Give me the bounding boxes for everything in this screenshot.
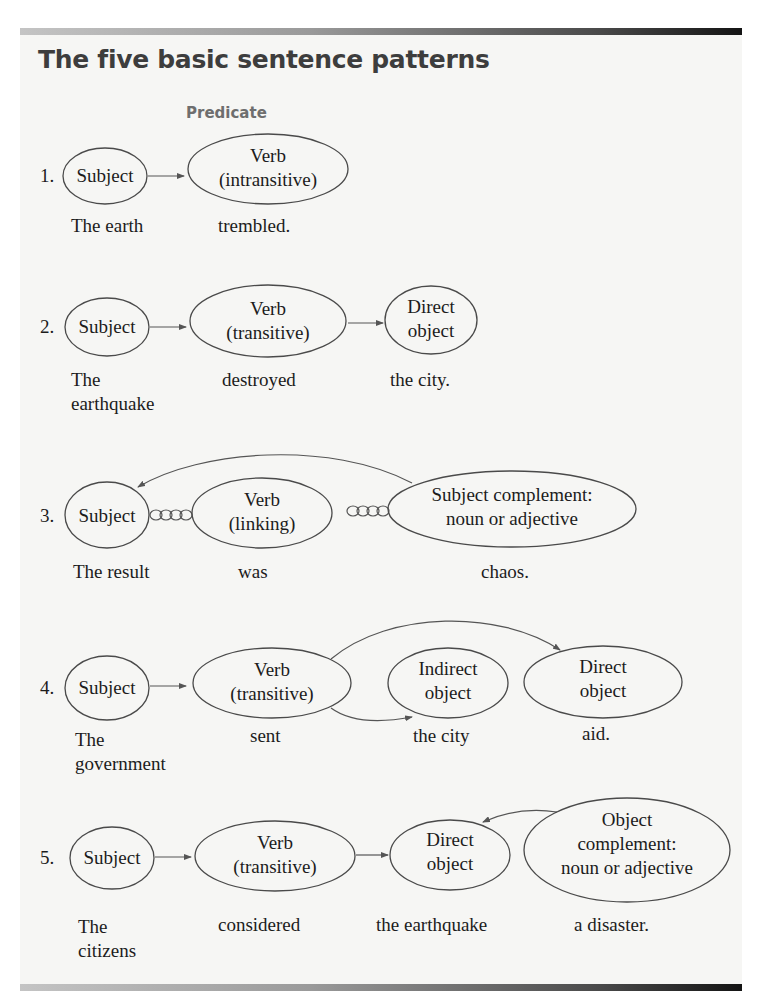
svg-text:Verb: Verb <box>244 489 280 510</box>
curved-arrow-icon <box>138 455 412 487</box>
curved-arrow-icon <box>483 810 557 822</box>
node-verb: Verb (intransitive) <box>188 134 348 204</box>
example-subject-line-2: earthquake <box>71 393 154 414</box>
svg-text:(transitive): (transitive) <box>226 322 309 344</box>
example-subject-line-1: The <box>75 729 105 750</box>
pattern-4: 4. Subject Verb (transitive) Indirect ob… <box>40 621 682 774</box>
pattern-3: 3. Subject Verb (linking) Subject comple… <box>40 455 636 582</box>
node-verb: Verb (linking) <box>192 478 332 548</box>
svg-text:Indirect: Indirect <box>418 658 478 679</box>
node-subject: Subject <box>63 148 147 204</box>
example-subject: The result <box>73 561 150 582</box>
example-verb: sent <box>250 725 281 746</box>
example-subject-line-2: citizens <box>78 940 136 961</box>
svg-text:Direct: Direct <box>579 656 627 677</box>
node-subject-complement: Subject complement: noun or adjective <box>388 471 636 547</box>
node-subject: Subject <box>70 827 154 889</box>
svg-text:Verb: Verb <box>257 832 293 853</box>
svg-text:object: object <box>425 682 472 703</box>
pattern-2: 2. Subject Verb (transitive) Direct obje… <box>40 285 477 414</box>
example-subject-line-1: The <box>78 916 108 937</box>
node-object-complement: Object complement: noun or adjective <box>524 798 730 902</box>
node-verb: Verb (transitive) <box>195 821 355 891</box>
node-subject: Subject <box>65 656 149 720</box>
svg-text:(transitive): (transitive) <box>230 683 313 705</box>
svg-text:(linking): (linking) <box>229 513 296 535</box>
example-indirect-object: the city <box>413 725 470 746</box>
svg-text:(intransitive): (intransitive) <box>219 169 317 191</box>
sentence-patterns-diagram: 1. Subject Verb (intransitive) The earth… <box>0 0 777 994</box>
pattern-5: 5. Subject Verb (transitive) Direct obje… <box>40 798 730 961</box>
example-verb: was <box>238 561 268 582</box>
svg-text:Subject complement:: Subject complement: <box>432 484 593 505</box>
curved-arrow-icon <box>331 621 560 659</box>
svg-text:object: object <box>427 853 474 874</box>
node-subject: Subject <box>65 298 149 356</box>
svg-text:Subject: Subject <box>77 165 135 186</box>
example-direct-object: the earthquake <box>376 914 487 935</box>
example-subject-line-2: government <box>75 753 166 774</box>
example-subject-line-1: The <box>71 369 101 390</box>
svg-text:Verb: Verb <box>254 659 290 680</box>
pattern-1: 1. Subject Verb (intransitive) The earth… <box>40 134 348 236</box>
curved-arrow-icon <box>331 708 412 720</box>
svg-text:Subject: Subject <box>79 505 137 526</box>
node-direct-object: Direct object <box>390 820 510 890</box>
svg-text:noun or adjective: noun or adjective <box>561 857 693 878</box>
linking-chain-icon <box>347 506 389 516</box>
svg-text:Direct: Direct <box>407 296 455 317</box>
example-complement: chaos. <box>481 561 529 582</box>
node-direct-object: Direct object <box>524 646 682 718</box>
svg-text:noun or adjective: noun or adjective <box>446 508 578 529</box>
svg-text:complement:: complement: <box>577 833 676 854</box>
pattern-number: 1. <box>40 165 54 186</box>
node-subject: Subject <box>65 482 149 548</box>
svg-text:Subject: Subject <box>84 847 142 868</box>
pattern-number: 2. <box>40 316 54 337</box>
node-verb: Verb (transitive) <box>193 648 351 718</box>
example-verb: trembled. <box>218 215 290 236</box>
example-verb: destroyed <box>222 369 296 390</box>
example-object: the city. <box>390 369 450 390</box>
svg-text:Verb: Verb <box>250 298 286 319</box>
pattern-number: 5. <box>40 847 54 868</box>
example-verb: considered <box>218 914 301 935</box>
svg-text:object: object <box>408 320 455 341</box>
svg-text:(transitive): (transitive) <box>233 856 316 878</box>
pattern-number: 4. <box>40 677 54 698</box>
linking-chain-icon <box>150 510 192 520</box>
example-direct-object: aid. <box>582 723 610 744</box>
node-indirect-object: Indirect object <box>388 648 508 718</box>
example-object-complement: a disaster. <box>574 914 649 935</box>
pattern-number: 3. <box>40 505 54 526</box>
svg-text:Direct: Direct <box>426 829 474 850</box>
example-subject: The earth <box>71 215 144 236</box>
svg-text:object: object <box>580 680 627 701</box>
svg-text:Subject: Subject <box>79 677 137 698</box>
svg-text:Subject: Subject <box>79 316 137 337</box>
node-verb: Verb (transitive) <box>190 285 346 357</box>
svg-text:Object: Object <box>602 809 653 830</box>
svg-text:Verb: Verb <box>250 145 286 166</box>
node-direct-object: Direct object <box>385 286 477 354</box>
